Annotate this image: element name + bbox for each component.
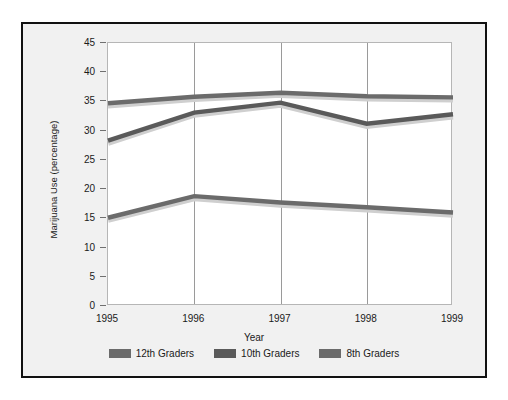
y-axis-tick-mark bbox=[100, 217, 106, 218]
y-axis-tick-label: 0 bbox=[61, 300, 95, 311]
y-axis-tick-mark bbox=[100, 71, 106, 72]
series-lines bbox=[108, 43, 453, 306]
figure-frame: Marijuana Use (percentage) 0510152025303… bbox=[21, 22, 487, 378]
legend-swatch bbox=[319, 349, 341, 358]
y-axis-title: Marijuana Use (percentage) bbox=[48, 90, 59, 270]
y-axis-tick-mark bbox=[100, 159, 106, 160]
y-axis-tick-label: 45 bbox=[61, 37, 95, 48]
x-axis-tick-label: 1996 bbox=[163, 313, 223, 324]
x-axis-tick-label: 1995 bbox=[77, 313, 137, 324]
y-axis-tick-label: 10 bbox=[61, 241, 95, 252]
y-axis-tick-mark bbox=[100, 305, 106, 306]
line-chart: Marijuana Use (percentage) 0510152025303… bbox=[23, 24, 485, 376]
chart-legend: 12th Graders10th Graders8th Graders bbox=[23, 348, 485, 359]
y-axis-tick-label: 40 bbox=[61, 66, 95, 77]
y-axis-tick-label: 25 bbox=[61, 153, 95, 164]
x-axis-tick-label: 1999 bbox=[422, 313, 482, 324]
y-axis-tick-mark bbox=[100, 42, 106, 43]
y-axis-tick-label: 5 bbox=[61, 270, 95, 281]
legend-label: 8th Graders bbox=[346, 348, 399, 359]
legend-swatch bbox=[109, 349, 131, 358]
x-axis-tick-label: 1997 bbox=[250, 313, 310, 324]
legend-label: 10th Graders bbox=[241, 348, 299, 359]
legend-item[interactable]: 10th Graders bbox=[214, 348, 299, 359]
y-axis-tick-mark bbox=[100, 188, 106, 189]
y-axis-tick-mark bbox=[100, 247, 106, 248]
plot-area bbox=[107, 42, 452, 305]
y-axis-tick-mark bbox=[100, 276, 106, 277]
x-axis-title: Year bbox=[23, 332, 485, 343]
y-axis-tick-mark bbox=[100, 100, 106, 101]
y-axis-tick-label: 20 bbox=[61, 183, 95, 194]
y-axis-tick-label: 30 bbox=[61, 124, 95, 135]
legend-item[interactable]: 8th Graders bbox=[319, 348, 399, 359]
y-axis-tick-mark bbox=[100, 130, 106, 131]
legend-label: 12th Graders bbox=[136, 348, 194, 359]
y-axis-tick-label: 35 bbox=[61, 95, 95, 106]
legend-item[interactable]: 12th Graders bbox=[109, 348, 194, 359]
x-axis-tick-label: 1998 bbox=[336, 313, 396, 324]
legend-swatch bbox=[214, 349, 236, 358]
series-line bbox=[108, 103, 453, 141]
y-axis-tick-label: 15 bbox=[61, 212, 95, 223]
